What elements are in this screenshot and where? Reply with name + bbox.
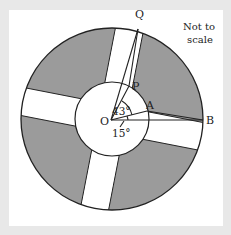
angle-label-43: 43° [112, 105, 131, 117]
label-A: A [145, 99, 155, 112]
note-line-1: Not to [183, 21, 215, 32]
label-B: B [206, 114, 214, 127]
geometry-diagram: Q P A B O 43° 15° Not to scale [0, 0, 231, 235]
label-Q: Q [135, 8, 144, 21]
note-line-2: scale [187, 34, 213, 45]
angle-label-15: 15° [112, 127, 131, 139]
label-O: O [100, 115, 109, 128]
label-P: P [132, 80, 140, 93]
